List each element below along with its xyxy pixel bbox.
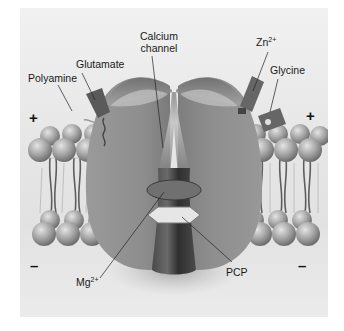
- pcp-site: [148, 207, 200, 223]
- receptor-illustration: [20, 8, 328, 317]
- minus-sign-right: –: [298, 258, 306, 273]
- magnesium-label: Mg2+: [76, 276, 99, 288]
- glutamate-label: Glutamate: [76, 58, 124, 70]
- nmda-receptor-diagram: Calcium channel Glutamate Polyamine Zn2+…: [20, 8, 328, 317]
- zinc-label: Zn2+: [256, 36, 276, 48]
- minus-sign-left: –: [30, 258, 38, 273]
- calcium-channel-label: Calcium channel: [140, 30, 178, 54]
- lipid-heads-upper-front: [28, 138, 322, 162]
- plus-sign-right: +: [306, 108, 315, 123]
- magnesium-ring: [147, 180, 201, 200]
- pcp-label: PCP: [226, 266, 248, 278]
- glycine-label: Glycine: [270, 64, 305, 76]
- plus-sign-left: +: [29, 110, 38, 125]
- zinc-site: [240, 76, 264, 112]
- polyamine-label: Polyamine: [28, 72, 77, 84]
